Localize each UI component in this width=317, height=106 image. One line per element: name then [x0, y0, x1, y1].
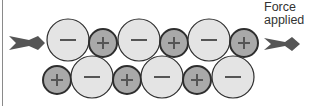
arrow-left-icon — [9, 36, 45, 50]
negative-ion — [141, 56, 183, 98]
negative-ion — [118, 19, 160, 61]
label-line-2: applied — [264, 14, 304, 27]
ionic-crystal-force-diagram: Force applied — [0, 0, 317, 106]
positive-ion — [160, 29, 188, 57]
negative-ion — [188, 19, 230, 61]
negative-ion — [71, 56, 113, 98]
positive-ion — [113, 66, 141, 94]
positive-ion — [89, 29, 117, 57]
positive-ion — [183, 66, 211, 94]
positive-ion — [43, 66, 71, 94]
positive-ion — [230, 29, 258, 57]
negative-ion — [212, 56, 254, 98]
arrow-right-icon — [264, 37, 300, 51]
force-applied-label: Force applied — [264, 1, 304, 27]
negative-ion — [47, 19, 89, 61]
